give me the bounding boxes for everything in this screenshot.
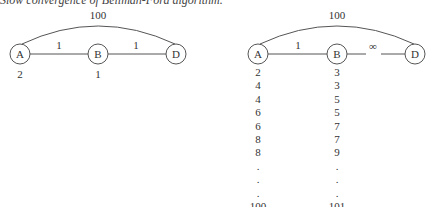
a-distance: 2 — [243, 66, 273, 79]
b-distance: . — [322, 187, 352, 200]
node-a-distance: 2 — [17, 68, 23, 80]
b-distance: . — [322, 160, 352, 173]
b-distance: 3 — [322, 66, 352, 79]
a-distance: 4 — [243, 79, 273, 92]
edge-a-d-weight: 100 — [90, 9, 107, 21]
b-distance: . — [322, 173, 352, 186]
edge-a-b-weight: 1 — [56, 39, 62, 51]
node-a-label: A — [16, 48, 24, 60]
node-a-label: A — [254, 48, 262, 60]
node-b-distance: 1 — [95, 68, 101, 80]
edge-b-d-weight: 1 — [133, 39, 139, 51]
node-b-distance-column: 3 3 5 5 7 7 9 . . . 101 — [322, 66, 352, 207]
left-graph: A B D 100 1 1 2 1 — [10, 9, 186, 80]
a-distance: 4 — [243, 93, 273, 106]
edge-a-d-curved — [22, 26, 175, 44]
b-distance: 5 — [322, 106, 352, 119]
node-b-label: B — [94, 48, 101, 60]
b-distance: 3 — [322, 79, 352, 92]
b-distance: 7 — [322, 120, 352, 133]
a-distance: . — [243, 187, 273, 200]
edge-a-b-weight: 1 — [295, 39, 301, 51]
a-distance: 100 — [243, 200, 273, 207]
bellman-ford-diagram: A B D 100 1 1 2 1 A B D 100 1 ∞ — [0, 0, 431, 207]
a-distance: 8 — [243, 146, 273, 159]
b-distance: 9 — [322, 146, 352, 159]
node-b-label: B — [333, 48, 340, 60]
node-a-distance-column: 2 4 4 6 6 8 8 . . . 100 — [243, 66, 273, 207]
edge-a-d-weight: 100 — [329, 9, 346, 21]
a-distance: 8 — [243, 133, 273, 146]
a-distance: . — [243, 160, 273, 173]
edge-a-d-curved — [260, 26, 414, 44]
a-distance: 6 — [243, 106, 273, 119]
b-distance: 101 — [322, 200, 352, 207]
b-distance: 5 — [322, 93, 352, 106]
node-d-label: D — [172, 48, 180, 60]
a-distance: . — [243, 173, 273, 186]
node-d-label: D — [411, 48, 419, 60]
edge-b-d-weight-infinity: ∞ — [369, 40, 377, 52]
b-distance: 7 — [322, 133, 352, 146]
right-graph: A B D 100 1 ∞ — [248, 9, 425, 64]
a-distance: 6 — [243, 120, 273, 133]
